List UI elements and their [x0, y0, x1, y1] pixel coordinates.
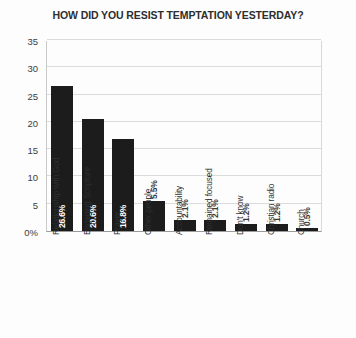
bar-chart-figure: HOW DID YOU RESIST TEMPTATION YESTERDAY?… — [0, 0, 356, 338]
gridline — [47, 39, 321, 40]
y-tick-label: 30 — [0, 63, 42, 74]
x-tick-slot: Other people — [138, 235, 168, 335]
y-tick-label: 25 — [0, 90, 42, 101]
y-tick-label: 35 — [0, 36, 42, 47]
x-axis: Relationship with GodEngaging ScriptureP… — [46, 235, 322, 335]
y-axis: 0%5101520253035 — [0, 0, 42, 338]
chart-title: HOW DID YOU RESIST TEMPTATION YESTERDAY? — [0, 9, 356, 21]
x-tick-slot: Prayer — [107, 235, 137, 335]
x-tick-slot: Remained focused — [199, 235, 229, 335]
x-tick-label: Don't know — [237, 196, 245, 235]
y-tick-label: 20 — [0, 117, 42, 128]
x-tick-slot: Engaging Scripture — [77, 235, 107, 335]
y-tick-label: 15 — [0, 145, 42, 156]
x-tick-slot: Relationship with God — [46, 235, 76, 335]
x-tick-slot: Don't know — [230, 235, 260, 335]
x-tick-label: Relationship with God — [53, 157, 61, 235]
x-tick-label: Christian radio — [267, 184, 275, 235]
y-tick-label: 5 — [0, 199, 42, 210]
y-tick-label: 0% — [0, 227, 42, 238]
x-tick-slot: Church — [291, 235, 321, 335]
x-tick-label: Prayer — [114, 211, 122, 235]
y-tick-label: 10 — [0, 172, 42, 183]
x-tick-label: Church — [298, 209, 306, 235]
x-tick-label: Engaging Scripture — [83, 167, 91, 235]
x-tick-label: Remained focused — [206, 168, 214, 235]
x-tick-slot: Christian radio — [261, 235, 291, 335]
bar-slot[interactable]: 16.8% — [108, 41, 138, 231]
bar-slot[interactable]: 0.5% — [292, 41, 322, 231]
x-tick-slot: Accountability — [169, 235, 199, 335]
x-tick-label: Accountability — [175, 186, 183, 235]
x-tick-label: Other people — [145, 189, 153, 235]
